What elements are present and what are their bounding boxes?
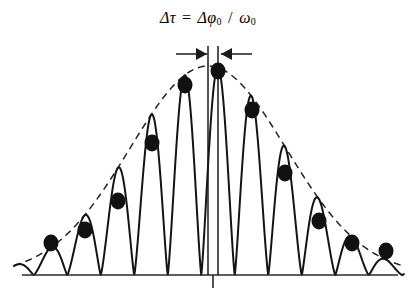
peak-marker [44, 235, 59, 252]
peak-marker [312, 213, 327, 230]
slash-symbol: / [226, 9, 235, 26]
peak-marker [345, 235, 360, 252]
equals-symbol: = [180, 9, 193, 26]
tau-symbol: τ [170, 9, 176, 26]
plot-canvas [0, 0, 416, 303]
peak-marker [211, 63, 226, 80]
peak-marker [379, 243, 394, 260]
waveform-figure: Δτ = Δφ0 / ω0 [0, 0, 416, 303]
peak-marker [178, 77, 193, 94]
peak-marker [111, 193, 126, 210]
delta-symbol: Δ [160, 9, 170, 26]
peak-marker [145, 135, 160, 152]
figure-title-formula: Δτ = Δφ0 / ω0 [0, 8, 416, 32]
reference-lines [208, 46, 218, 275]
left-arrowhead-icon [196, 48, 207, 60]
peak-marker [245, 102, 260, 119]
peak-marker [278, 165, 293, 182]
delta-tau-dimension [176, 48, 252, 60]
peak-marker [78, 222, 93, 239]
omega-symbol: ω [239, 9, 251, 26]
phi-subscript: 0 [216, 16, 221, 27]
delta-symbol-2: Δ [198, 9, 208, 26]
omega-subscript: 0 [251, 16, 256, 27]
right-arrowhead-icon [221, 48, 232, 60]
